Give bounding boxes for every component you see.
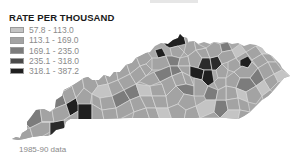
legend-item: 57.8 - 113.0 <box>10 25 79 35</box>
legend-label: 113.1 - 169.0 <box>29 35 78 45</box>
legend-item: 318.1 - 387.2 <box>10 66 79 76</box>
legend-swatch <box>10 47 24 54</box>
legend-label: 169.1 - 235.0 <box>29 46 79 56</box>
legend: 57.8 - 113.0 113.1 - 169.0 169.1 - 235.0… <box>10 25 79 76</box>
cropped-header-text <box>150 0 198 3</box>
legend-item: 113.1 - 169.0 <box>10 35 79 45</box>
legend-label: 235.1 - 318.0 <box>29 56 79 66</box>
legend-swatch <box>10 37 24 44</box>
legend-item: 235.1 - 318.0 <box>10 56 79 66</box>
legend-label: 318.1 - 387.2 <box>29 66 79 76</box>
legend-swatch <box>10 58 24 65</box>
legend-swatch <box>10 68 24 75</box>
legend-title: RATE PER THOUSAND <box>9 12 115 23</box>
legend-item: 169.1 - 235.0 <box>10 46 79 56</box>
data-source-note: 1985-90 data <box>19 145 66 154</box>
legend-swatch <box>10 27 24 34</box>
legend-label: 57.8 - 113.0 <box>29 25 74 35</box>
choropleth-map-figure: RATE PER THOUSAND 57.8 - 113.0 113.1 - 1… <box>0 0 296 161</box>
